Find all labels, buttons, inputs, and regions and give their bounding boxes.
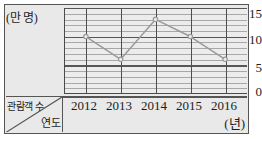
corner-label-audience-count: 관람객 수 (7, 98, 43, 113)
x-tick-label-2013: 2013 (106, 98, 132, 114)
data-point-2013 (118, 57, 122, 61)
series-line-gwanramgaek-su (65, 8, 247, 94)
x-axis-unit-label: (년) (224, 113, 245, 132)
plot-area (64, 8, 247, 94)
data-point-2016 (223, 57, 227, 61)
series-polyline (86, 19, 225, 59)
line-chart-figure: (만 명) 15 10 5 0 (0, 0, 262, 141)
data-point-2014 (153, 17, 157, 21)
series-markers (84, 17, 228, 61)
corner-label-year: 연도 (41, 114, 60, 130)
x-axis-area: 관람객 수 연도 2012 2013 2014 2015 2016 (년) (6, 96, 247, 132)
x-tick-label-2014: 2014 (141, 98, 167, 114)
y-axis-unit-label: (만 명) (6, 8, 38, 26)
data-point-2015 (188, 34, 192, 38)
x-tick-label-2015: 2015 (176, 98, 202, 114)
x-tick-label-2012: 2012 (71, 98, 97, 114)
data-point-2012 (84, 34, 88, 38)
axis-corner-cell: 관람객 수 연도 (6, 96, 63, 132)
y-axis-label-area: (만 명) (6, 6, 63, 94)
x-tick-label-2016: 2016 (211, 98, 237, 114)
